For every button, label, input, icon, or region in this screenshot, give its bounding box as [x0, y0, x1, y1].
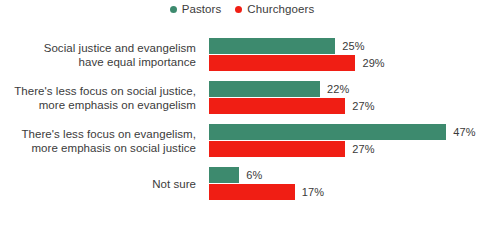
legend-dot-icon — [235, 6, 242, 13]
legend-dot-icon — [170, 6, 177, 13]
bar-pastors[interactable] — [209, 38, 335, 54]
legend-label: Pastors — [182, 3, 222, 15]
bar-pastors[interactable] — [209, 124, 446, 140]
bar-row: 17% — [209, 184, 324, 200]
bar-churchgoers[interactable] — [209, 184, 295, 200]
category-label: There's less focus on evangelism,more em… — [0, 122, 196, 160]
legend-item[interactable]: Pastors — [170, 3, 222, 15]
bar-chart: PastorsChurchgoers Social justice and ev… — [0, 0, 484, 232]
bar-group: Not sure6%17% — [0, 165, 484, 203]
bar-value-label: 17% — [302, 186, 324, 198]
bar-pastors[interactable] — [209, 81, 320, 97]
category-label: Not sure — [0, 165, 196, 203]
chart-plot-area: Social justice and evangelismhave equal … — [0, 36, 484, 208]
category-label-line: There's less focus on social justice, — [14, 84, 196, 98]
bar-row: 27% — [209, 98, 375, 114]
chart-legend: PastorsChurchgoers — [0, 3, 484, 15]
category-label: There's less focus on social justice,mor… — [0, 79, 196, 117]
bar-value-label: 29% — [362, 57, 384, 69]
bar-group: There's less focus on evangelism,more em… — [0, 122, 484, 160]
bar-pastors[interactable] — [209, 167, 239, 183]
bar-row: 22% — [209, 81, 375, 97]
bar-row: 6% — [209, 167, 324, 183]
bar-pair: 6%17% — [209, 167, 324, 200]
bar-value-label: 47% — [453, 126, 475, 138]
bar-churchgoers[interactable] — [209, 141, 345, 157]
category-label-line: Not sure — [152, 177, 196, 191]
category-label-line: have equal importance — [79, 55, 196, 69]
bar-pair: 25%29% — [209, 38, 385, 71]
bar-row: 25% — [209, 38, 385, 54]
bar-value-label: 27% — [352, 100, 374, 112]
bar-row: 27% — [209, 141, 476, 157]
bar-pair: 22%27% — [209, 81, 375, 114]
legend-label: Churchgoers — [247, 3, 314, 15]
bar-churchgoers[interactable] — [209, 98, 345, 114]
bar-pair: 47%27% — [209, 124, 476, 157]
category-label: Social justice and evangelismhave equal … — [0, 36, 196, 74]
legend-item[interactable]: Churchgoers — [235, 3, 314, 15]
category-label-line: There's less focus on evangelism, — [21, 127, 196, 141]
bar-group: Social justice and evangelismhave equal … — [0, 36, 484, 74]
bar-value-label: 6% — [246, 169, 262, 181]
bar-churchgoers[interactable] — [209, 55, 355, 71]
category-label-line: more emphasis on social justice — [31, 141, 196, 155]
category-label-line: Social justice and evangelism — [44, 41, 196, 55]
bar-row: 47% — [209, 124, 476, 140]
category-label-line: more emphasis on evangelism — [39, 98, 196, 112]
bar-value-label: 22% — [327, 83, 349, 95]
bar-group: There's less focus on social justice,mor… — [0, 79, 484, 117]
bar-value-label: 25% — [342, 40, 364, 52]
bar-value-label: 27% — [352, 143, 374, 155]
bar-row: 29% — [209, 55, 385, 71]
